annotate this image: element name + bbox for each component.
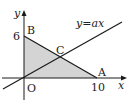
x-tick-10: 10 xyxy=(91,81,105,94)
coordinate-diagram: y x O 6 10 B C A y=ax xyxy=(0,0,131,107)
origin-label: O xyxy=(27,82,36,95)
y-tick-6: 6 xyxy=(13,30,20,43)
point-b-label: B xyxy=(27,24,35,37)
point-a-label: A xyxy=(97,66,107,79)
y-axis-label: y xyxy=(13,7,21,20)
line-equation-label: y=ax xyxy=(75,17,105,30)
point-c-label: C xyxy=(56,44,64,57)
y-axis-arrow-icon xyxy=(22,10,27,16)
x-axis-label: x xyxy=(118,79,125,92)
